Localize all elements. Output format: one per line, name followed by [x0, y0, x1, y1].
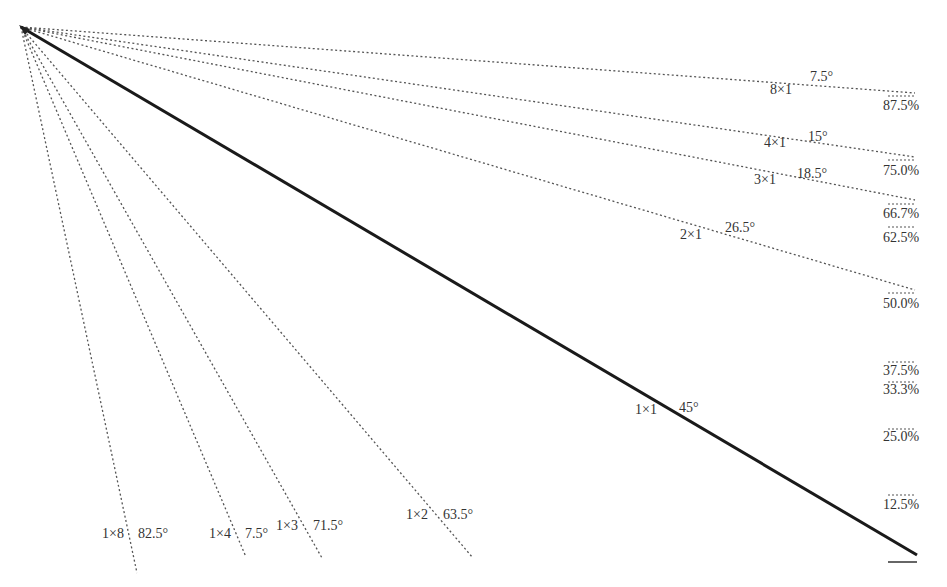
line-3x1 [21, 27, 915, 200]
pct-label-62-5: 62.5% [883, 231, 919, 245]
angle-label-4x1: 15° [808, 130, 828, 144]
pct-label-37-5: 37.5% [883, 364, 919, 378]
ratio-label-1x2: 1×2 [406, 508, 428, 522]
ratio-label-2x1: 2×1 [680, 228, 702, 242]
angle-label-3x1: 18.5° [797, 167, 827, 181]
line-1x2 [21, 27, 473, 558]
pct-label-75-0: 75.0% [883, 164, 919, 178]
pct-label-33-3: 33.3% [883, 383, 919, 397]
angle-label-1x8: 82.5° [138, 527, 168, 541]
angle-label-1x4: 7.5° [245, 527, 268, 541]
pct-label-25-0: 25.0% [883, 430, 919, 444]
pct-label-66-7: 66.7% [883, 207, 919, 221]
line-1x3 [21, 27, 322, 558]
angle-label-1x1: 45° [679, 401, 699, 415]
ratio-label-1x3: 1×3 [276, 519, 298, 533]
origin-arrow-icon [19, 25, 30, 35]
angle-label-1x3: 71.5° [313, 519, 343, 533]
pct-label-12-5: 12.5% [883, 498, 919, 512]
angle-label-2x1: 26.5° [725, 221, 755, 235]
ratio-label-4x1: 4×1 [764, 136, 786, 150]
ratio-label-1x4: 1×4 [209, 527, 231, 541]
ratio-angle-diagram [0, 0, 947, 587]
angle-label-1x2: 63.5° [443, 508, 473, 522]
pct-label-87-5: 87.5% [883, 99, 919, 113]
pct-label-50-0: 50.0% [883, 297, 919, 311]
angle-label-8x1: 7.5° [810, 70, 833, 84]
line-1x8 [21, 27, 137, 573]
line-2x1 [21, 27, 915, 290]
line-1x1 [21, 27, 917, 555]
ratio-label-1x8: 1×8 [102, 527, 124, 541]
ratio-label-1x1: 1×1 [635, 403, 657, 417]
ratio-label-8x1: 8×1 [770, 83, 792, 97]
line-1x4 [21, 27, 246, 557]
ratio-label-3x1: 3×1 [754, 173, 776, 187]
